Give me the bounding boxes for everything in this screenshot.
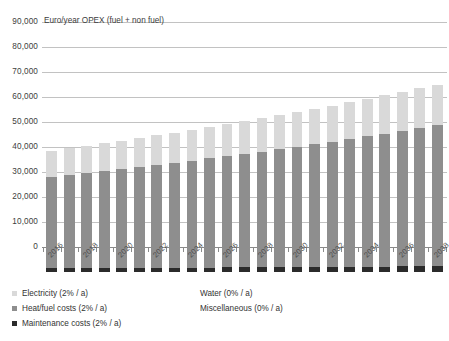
legend-swatch-icon [190,306,195,311]
bar-2035[interactable] [379,95,390,272]
x-axis-tick [218,247,219,252]
bar-segment [134,138,145,167]
bar-segment [274,115,285,149]
x-axis-tick [148,247,149,252]
y-axis-tick-label: 70,000 [0,67,38,76]
x-axis-tick [253,247,254,252]
y-axis-tick-label: 60,000 [0,92,38,101]
x-axis-tick [323,247,324,252]
x-axis-tick [78,247,79,252]
bar-segment [292,112,303,147]
y-axis-tick-label: 20,000 [0,192,38,201]
bar-segment [81,146,92,173]
legend-column-right: Water (0% / a)Miscellaneous (0% / a) [190,286,283,316]
legend-label: Electricity (2% / a) [22,289,88,299]
x-axis-tick [428,247,429,252]
y-axis-tick-label: 40,000 [0,142,38,151]
y-axis-tick-label: 30,000 [0,167,38,176]
y-axis-tick-label: 10,000 [0,217,38,226]
bar-segment [239,121,250,154]
bar-series-group [43,0,446,272]
legend-swatch-icon [12,291,17,296]
legend-label: Heat/fuel costs (2% / a) [22,304,107,314]
legend-swatch-icon [190,291,195,296]
bar-segment [257,118,268,151]
bar-segment [327,106,338,142]
bar-segment [116,141,127,169]
bar-segment [432,85,443,126]
x-axis-tick [288,247,289,252]
legend-item[interactable]: Miscellaneous (0% / a) [190,301,283,316]
bar-segment [169,133,180,163]
bar-segment [344,102,355,139]
bar-segment [46,151,57,177]
bar-2037[interactable] [414,88,425,272]
legend-item[interactable]: Heat/fuel costs (2% / a) [12,301,121,316]
x-axis: 2016201820202022202420262028203020322034… [43,247,446,289]
legend-swatch-icon [12,306,17,311]
bar-segment [362,99,373,136]
bar-segment [222,124,233,156]
legend-item[interactable]: Electricity (2% / a) [12,286,121,301]
legend-label: Water (0% / a) [200,289,252,299]
legend-label: Miscellaneous (0% / a) [200,304,283,314]
bar-segment [414,128,425,266]
bar-segment [397,92,408,131]
bar-segment [64,148,75,175]
legend-item[interactable]: Water (0% / a) [190,286,283,301]
bar-segment [151,135,162,165]
x-axis-tick [183,247,184,252]
y-axis-tick-label: 90,000 [0,17,38,26]
bar-segment [309,109,320,144]
y-axis-tick-label: 0 [0,242,38,251]
plot-area: 90,000Euro/year OPEX (fuel + non fuel)80… [0,0,449,272]
x-axis-tick [43,247,44,252]
bar-segment [187,130,198,161]
chart-root: 90,000Euro/year OPEX (fuel + non fuel)80… [0,0,449,341]
bar-segment [414,88,425,128]
legend-swatch-icon [12,321,17,326]
x-axis-tick [393,247,394,252]
legend-item[interactable]: Maintenance costs (2% / a) [12,316,121,331]
legend-label: Maintenance costs (2% / a) [22,319,121,329]
y-axis-tick-label: 50,000 [0,117,38,126]
y-axis-tick-label: 80,000 [0,42,38,51]
legend-column-left: Electricity (2% / a)Heat/fuel costs (2% … [12,286,121,331]
bar-segment [204,127,215,158]
chart-legend: Electricity (2% / a)Heat/fuel costs (2% … [8,286,440,336]
bar-segment [99,143,110,171]
x-axis-tick [358,247,359,252]
bar-segment [379,95,390,133]
x-axis-tick [113,247,114,252]
